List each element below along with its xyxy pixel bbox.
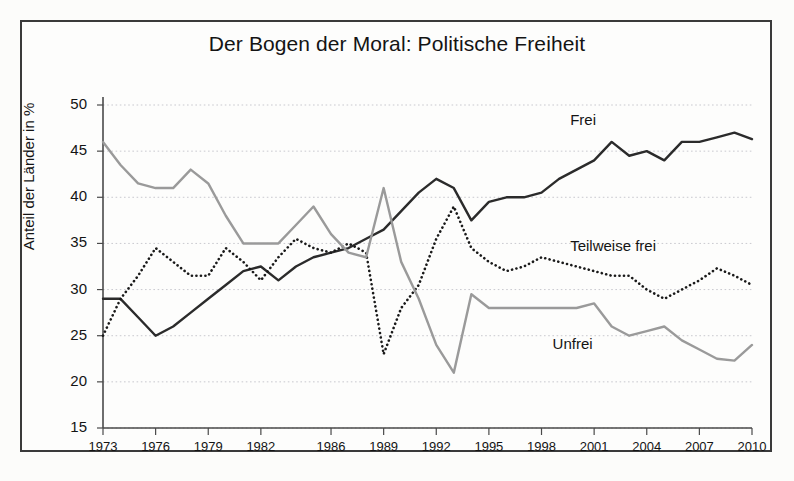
y-axis-tick: 45	[47, 141, 87, 158]
x-axis-tick: 2010	[722, 439, 782, 454]
x-axis-tick: 1979	[178, 439, 238, 454]
x-axis-tick: 1986	[301, 439, 361, 454]
y-axis-tick: 30	[47, 280, 87, 297]
y-axis-tick: 25	[47, 326, 87, 343]
x-axis-tick: 1992	[406, 439, 466, 454]
series-label-teilweise-frei: Teilweise frei	[570, 237, 656, 254]
y-axis-tick: 40	[47, 187, 87, 204]
y-axis-tick: 15	[47, 418, 87, 435]
y-axis-tick: 50	[47, 95, 87, 112]
plot-area: Anteil der Länder in % 15202530354045501…	[0, 0, 794, 481]
x-axis-tick: 2001	[564, 439, 624, 454]
chart-canvas	[0, 0, 794, 481]
x-axis-tick: 1998	[512, 439, 572, 454]
series-label-frei: Frei	[570, 111, 596, 128]
x-axis-tick: 2007	[669, 439, 729, 454]
x-axis-tick: 1976	[126, 439, 186, 454]
chart-figure: Der Bogen der Moral: Politische Freiheit…	[0, 0, 794, 481]
y-axis-tick: 35	[47, 233, 87, 250]
x-axis-tick: 2004	[617, 439, 677, 454]
x-axis-tick: 1982	[231, 439, 291, 454]
y-axis-tick: 20	[47, 372, 87, 389]
x-axis-tick: 1973	[73, 439, 133, 454]
x-axis-tick: 1989	[354, 439, 414, 454]
series-label-unfrei: Unfrei	[553, 335, 593, 352]
x-axis-tick: 1995	[459, 439, 519, 454]
